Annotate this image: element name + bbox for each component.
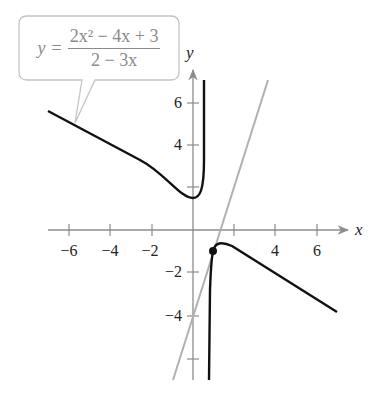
y-axis-label: y <box>184 43 194 62</box>
equation-fraction: 2x² − 4x + 3 2 − 3x <box>68 26 161 71</box>
equation-denominator: 2 − 3x <box>91 49 137 71</box>
x-tick-label: 4 <box>271 242 279 259</box>
highlighted-point <box>209 247 217 255</box>
equation-numerator: 2x² − 4x + 3 <box>68 26 161 49</box>
y-tick-label: 4 <box>174 136 182 153</box>
x-tick-label: −6 <box>60 242 77 259</box>
y-tick-label: −4 <box>165 307 182 324</box>
x-tick-label: −2 <box>141 242 158 259</box>
x-tick-label: −4 <box>101 242 118 259</box>
equation-label: y = 2x² − 4x + 3 2 − 3x <box>19 16 179 80</box>
x-tick-label: 6 <box>313 242 321 259</box>
equation-equals: = <box>52 38 62 59</box>
y-tick-label: −2 <box>165 263 182 280</box>
equation-lhs: y <box>38 38 46 59</box>
y-tick-label: 6 <box>174 94 182 111</box>
x-axis-label: x <box>354 220 363 239</box>
curve-right-branch <box>209 243 337 380</box>
